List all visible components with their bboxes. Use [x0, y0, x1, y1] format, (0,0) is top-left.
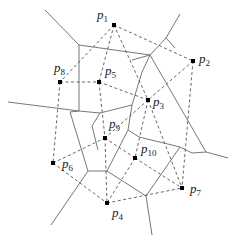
voronoi-edge — [45, 10, 79, 45]
voronoi-edge — [107, 130, 128, 171]
site-point-p2 — [191, 59, 195, 63]
site-label-p2: p2 — [198, 51, 210, 68]
voronoi-edge — [107, 171, 146, 196]
voronoi-edge — [70, 111, 79, 112]
delaunay-edge — [114, 25, 148, 100]
site-label-p1: p1 — [96, 7, 108, 24]
voronoi-edge — [146, 196, 152, 235]
voronoi-edge — [150, 38, 166, 55]
site-label-p9: p9 — [108, 116, 121, 133]
site-label-p10: p10 — [140, 141, 157, 158]
site-point-p5 — [97, 80, 101, 84]
voronoi-edge — [8, 102, 79, 111]
delaunay-edge — [114, 25, 193, 61]
site-labels: p1p2p3p4p5p6p7p8p9p10 — [53, 7, 210, 222]
site-point-p9 — [103, 136, 107, 140]
delaunay-edge — [135, 158, 182, 188]
voronoi-edge — [166, 38, 175, 48]
delaunay-edge — [53, 82, 60, 163]
site-label-p8: p8 — [53, 60, 66, 77]
voronoi-edge — [132, 55, 150, 60]
voronoi-edge — [166, 14, 180, 38]
voronoi-edge — [180, 147, 192, 153]
delaunay-edge — [105, 138, 135, 158]
site-label-p6: p6 — [61, 156, 74, 173]
voronoi-edge — [206, 152, 228, 158]
voronoi-edge — [142, 55, 150, 72]
delaunay-edge — [99, 82, 105, 138]
delaunay-edge — [182, 61, 193, 188]
site-label-p5: p5 — [104, 63, 117, 80]
site-point-p10 — [133, 156, 137, 160]
voronoi-edge — [92, 126, 98, 150]
site-point-p1 — [112, 23, 116, 27]
site-point-p8 — [58, 80, 62, 84]
site-point-p4 — [105, 201, 109, 205]
voronoi-edge — [100, 105, 132, 113]
voronoi-edge — [128, 105, 132, 130]
voronoi-edge — [128, 130, 139, 137]
voronoi-edge — [192, 152, 206, 153]
voronoi-diagram: p1p2p3p4p5p6p7p8p9p10 — [0, 0, 236, 240]
site-label-p4: p4 — [111, 205, 124, 222]
voronoi-edge — [51, 171, 88, 225]
site-label-p7: p7 — [189, 181, 202, 198]
site-point-p6 — [51, 161, 55, 165]
voronoi-edge — [132, 72, 142, 105]
site-point-p3 — [146, 98, 150, 102]
voronoi-edge — [79, 111, 100, 113]
site-label-p3: p3 — [152, 94, 165, 111]
site-point-p7 — [180, 186, 184, 190]
delaunay-edge — [99, 82, 148, 100]
voronoi-edge — [92, 113, 100, 126]
voronoi-edge — [79, 45, 150, 55]
delaunay-edge — [148, 100, 182, 188]
